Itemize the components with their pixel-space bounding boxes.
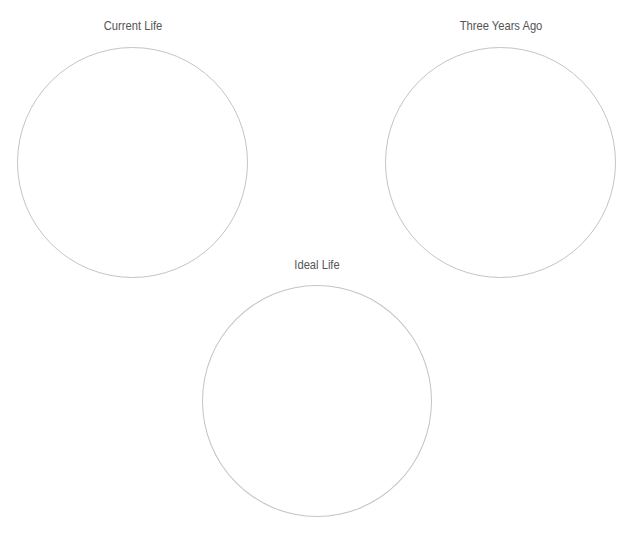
current-life-circle xyxy=(17,47,248,278)
three-years-ago-circle xyxy=(385,47,616,278)
ideal-life-label: Ideal Life xyxy=(294,257,339,273)
current-life-label: Current Life xyxy=(104,18,162,34)
three-years-ago-label: Three Years Ago xyxy=(460,18,543,34)
ideal-life-circle xyxy=(202,285,432,517)
